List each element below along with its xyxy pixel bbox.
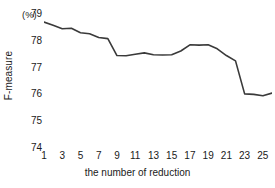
y-tick-label: 78 bbox=[18, 36, 42, 46]
x-tick-label: 13 bbox=[148, 150, 159, 162]
data-line-svg bbox=[44, 14, 272, 148]
y-tick-label: 79 bbox=[18, 9, 42, 19]
x-axis-tick-labels: 135791113151719212325 bbox=[44, 150, 272, 164]
x-tick-label: 15 bbox=[166, 150, 177, 162]
x-tick-label: 17 bbox=[184, 150, 195, 162]
y-tick-label: 77 bbox=[18, 63, 42, 73]
data-series-line bbox=[44, 22, 272, 96]
x-axis-title: the number of reduction bbox=[0, 167, 275, 178]
y-axis-title: F-measure bbox=[0, 0, 18, 150]
x-tick-label: 7 bbox=[96, 150, 102, 162]
x-tick-label: 25 bbox=[257, 150, 268, 162]
x-tick-label: 5 bbox=[78, 150, 84, 162]
y-tick-label: 75 bbox=[18, 116, 42, 126]
x-tick-label: 23 bbox=[239, 150, 250, 162]
x-tick-label: 11 bbox=[130, 150, 140, 162]
y-axis-tick-labels: 797877767574 bbox=[18, 0, 42, 188]
x-tick-label: 3 bbox=[59, 150, 65, 162]
x-tick-label: 19 bbox=[203, 150, 214, 162]
x-tick-label: 9 bbox=[114, 150, 120, 162]
x-tick-label: 1 bbox=[41, 150, 47, 162]
y-axis-title-text: F-measure bbox=[4, 50, 15, 99]
x-tick-label: 21 bbox=[221, 150, 232, 162]
y-tick-label: 76 bbox=[18, 89, 42, 99]
f-measure-line-chart: F-measure (%) 797877767574 1357911131517… bbox=[0, 0, 275, 188]
y-tick-label: 74 bbox=[18, 143, 42, 153]
plot-area bbox=[44, 14, 272, 148]
